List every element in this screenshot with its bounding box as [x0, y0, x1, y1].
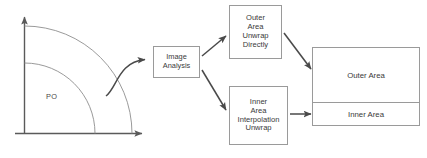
edge-plot-to-image-analysis [106, 60, 145, 97]
node-outer-area[interactable]: Outer Area [313, 48, 419, 103]
edge-outer-unwrap-to-outer-area [284, 33, 311, 69]
node-inner-area-interpolation-unwrap[interactable]: Inner Area Interpolation Unwrap [229, 86, 288, 145]
source-plot-arcs [25, 26, 133, 134]
source-plot-region-label: PO [46, 92, 57, 101]
node-image-analysis[interactable]: Image Analysis [153, 46, 200, 78]
node-outer-area-unwrap-directly[interactable]: Outer Area Unwrap Directly [229, 5, 282, 59]
inner-arc [25, 63, 96, 134]
outer-arc [25, 26, 133, 134]
edge-image-analysis-to-outer-unwrap [202, 36, 226, 56]
node-result-stack: Outer Area Inner Area [312, 47, 420, 126]
node-inner-area[interactable]: Inner Area [313, 103, 419, 125]
source-plot-axes [15, 17, 142, 134]
edge-image-analysis-to-inner-unwrap [202, 70, 226, 110]
diagram-canvas: PO Image Analysis Outer Area Unwrap Dire… [0, 0, 427, 158]
